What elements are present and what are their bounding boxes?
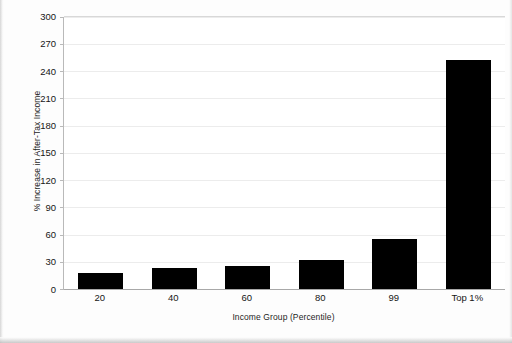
plot-area (63, 17, 505, 291)
y-tick-label: 30 (18, 256, 56, 267)
y-tick-label: 180 (18, 120, 56, 131)
y-tick-label: 300 (18, 11, 56, 22)
bar-2 (225, 266, 270, 290)
bar-1 (152, 268, 197, 289)
y-tick-label: 270 (18, 38, 56, 49)
y-tick-label: 60 (18, 229, 56, 240)
y-tick-label: 90 (18, 202, 56, 213)
y-axis-tick-labels: 300 270 240 210 180 150 120 90 60 30 0 (18, 11, 56, 295)
bar-chart-figure: % Increase in After-Tax Income 300 270 2… (0, 0, 512, 343)
x-tick-label: 20 (63, 292, 137, 303)
x-tick-label: Top 1% (431, 292, 505, 303)
x-tick-label: 80 (284, 292, 358, 303)
y-tick-label: 0 (18, 284, 56, 295)
scan-edge-shadow-bottom (0, 337, 512, 343)
x-tick-label: 60 (210, 292, 284, 303)
x-axis-tick-labels: 20 40 60 80 99 Top 1% (63, 292, 504, 308)
y-tick-label: 120 (18, 175, 56, 186)
bar-0 (78, 273, 123, 289)
scan-edge-shadow-left (0, 0, 4, 343)
x-tick-label: 99 (357, 292, 431, 303)
x-tick-label: 40 (137, 292, 211, 303)
bar-5 (446, 60, 491, 289)
bar-3 (299, 260, 344, 289)
y-tick-label: 150 (18, 147, 56, 158)
bars-layer (64, 17, 505, 290)
bar-4 (372, 239, 417, 289)
x-axis-title: Income Group (Percentile) (63, 312, 504, 322)
y-tick-label: 240 (18, 66, 56, 77)
y-tick-label: 210 (18, 93, 56, 104)
y-tickmark (60, 289, 64, 290)
